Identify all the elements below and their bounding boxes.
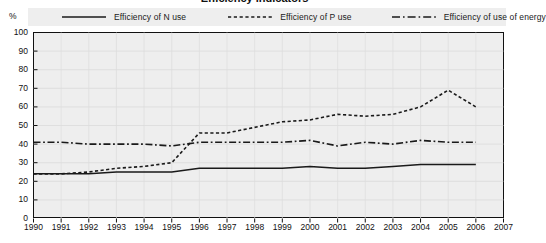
grid-lines [34,33,504,219]
legend-item-efficiency-energy-use[interactable]: Efficiency of use of energy [392,12,546,22]
x-tick-label-2007: 2007 [487,222,521,232]
axis-ticks [34,51,504,222]
legend-label-p-use: Efficiency of P use [280,12,352,22]
chart-area: 1009080706050403020100 19901991199219931… [0,26,509,243]
legend-label-n-use: Efficiency of N use [114,12,186,22]
dash-dot-line-icon [392,12,436,22]
legend-item-efficiency-n-use[interactable]: Efficiency of N use [62,12,186,22]
legend-label-energy-use: Efficiency of use of energy [444,12,546,22]
dotted-line-icon [228,12,272,22]
chart-title-strip: Efficiency indicators [0,0,509,7]
chart-svg [0,26,509,243]
solid-line-icon [62,12,106,22]
legend-items: Efficiency of N use Efficiency of P use … [28,8,506,26]
legend-item-efficiency-p-use[interactable]: Efficiency of P use [228,12,352,22]
page-title: Efficiency indicators [0,0,509,4]
chart-legend: Efficiency of N use Efficiency of P use … [28,8,506,26]
y-axis-unit-label: % [9,11,17,21]
